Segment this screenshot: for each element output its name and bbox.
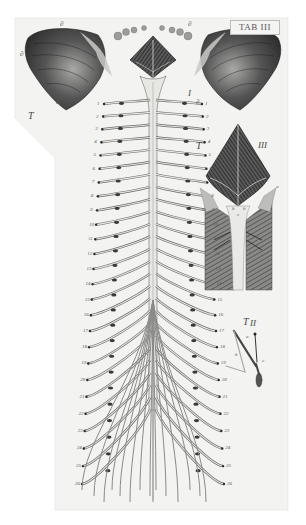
ganglion [194,419,199,422]
ganglion [111,308,116,311]
nerve-tip [216,346,218,348]
ganglion [117,153,122,156]
ganglion [182,114,187,117]
nerve-number-left: 5 [93,152,96,157]
ganglion [192,355,197,358]
nerve-number-right: 11 [214,236,219,241]
nerve-tip [223,483,225,485]
nerve-number-right: 10 [213,222,218,227]
nerve-tip [85,396,87,398]
nerve-number-left: 19 [81,360,86,365]
nerve-number-right: 26 [227,481,232,486]
nerve-tip [98,168,100,170]
nerve-tip [88,346,90,348]
nerve-tip [101,128,103,130]
nerve-number-right: 25 [226,463,231,468]
ganglion [184,153,189,156]
ganglion [187,221,192,224]
nerve-number-right: 14 [216,281,221,286]
nerve-number-right: 5 [209,152,212,157]
nerve-number-left: 12 [87,251,92,256]
ganglion [117,140,122,143]
figure-2-label: II [250,318,256,328]
figure-1-label: I [188,88,191,98]
ganglion [182,102,187,105]
nerve-tip [205,168,207,170]
nerve-number-right: 6 [209,166,212,171]
nerve-tip [93,253,95,255]
nerve-number-right: 9 [212,207,215,212]
plate-title-box: TAB III [230,20,280,35]
figure-3-letter: c [237,212,239,217]
nerve-tip [215,330,217,332]
nerve-tip [213,298,215,300]
nerve-number-right: 13 [216,266,221,271]
nerve-number-right: 19 [221,360,226,365]
ganglion [187,235,192,238]
figure-1-tab-marker: T [28,110,34,121]
figure-3-label: III [258,140,267,150]
nerve-number-left: 13 [86,266,91,271]
nerve-number-right: 1 [205,101,208,106]
nerve-tip [206,181,208,183]
nerve-tip [99,154,101,156]
ganglion [115,207,120,210]
nerve-tip [84,413,86,415]
ganglion [184,140,189,143]
nerve-tip [222,465,224,467]
ganglion [109,370,114,373]
ganglion [189,278,194,281]
figure-3-letter: a [276,184,279,189]
ganglion [110,324,115,327]
nerve-number-right: 7 [210,179,213,184]
ganglion [191,324,196,327]
nerve-tip [87,362,89,364]
ganglion [191,339,196,342]
nerve-tip [220,430,222,432]
nerve-number-left: 25 [76,463,81,468]
ganglion [183,127,188,130]
nerve-tip [221,447,223,449]
nerve-tip [203,128,205,130]
nerve-tip [94,238,96,240]
nerve-number-left: 3 [95,126,98,131]
nerve-tip [201,103,203,105]
plate-engraving [0,0,306,525]
nerve-number-left: 18 [82,344,87,349]
ganglion [113,235,118,238]
nerve-number-right: 22 [223,411,228,416]
ganglion [193,403,198,406]
nerve-tip [219,413,221,415]
nerve-number-right: 24 [225,445,230,450]
ganglion [186,193,191,196]
nerve-number-left: 21 [79,394,84,399]
ganglion [190,293,195,296]
nerve-number-right: 12 [215,251,220,256]
nerve-number-left: 9 [90,207,93,212]
nerve-tip [90,314,92,316]
nerve-tip [90,298,92,300]
nerve-number-right: 23 [224,428,229,433]
nerve-number-right: 21 [223,394,228,399]
cerebellum-right-label: ∂ [196,100,199,105]
ganglion [108,386,113,389]
ganglion [107,419,112,422]
figure-3-letter: b [243,206,246,211]
ganglion [194,435,199,438]
nerve-tip [204,154,206,156]
nerve-number-left: 26 [75,481,80,486]
ganglion [114,221,119,224]
ganglion [110,339,115,342]
cerebellum-left-label: ∂ [20,52,23,57]
nerve-tip [100,141,102,143]
ganglion [107,403,112,406]
ganglion [188,249,193,252]
nerve-number-left: 17 [83,328,88,333]
nerve-tip [86,379,88,381]
nerve-number-left: 22 [79,411,84,416]
nerve-tip [217,362,219,364]
figure-2-letter: a [246,334,249,339]
nerve-number-left: 1 [97,101,100,106]
nerve-tip [202,115,204,117]
ganglion [186,207,191,210]
